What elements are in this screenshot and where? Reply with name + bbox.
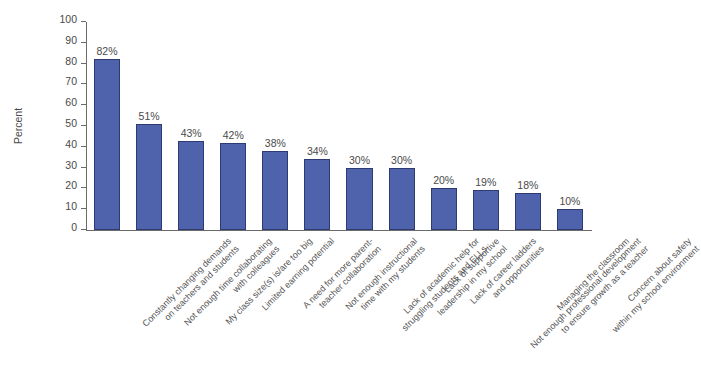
y-tick-label: 60: [65, 97, 77, 108]
bar-value-label: 20%: [433, 174, 454, 186]
bar-group[interactable]: 43%: [178, 22, 204, 230]
bar-group[interactable]: 42%: [220, 22, 246, 230]
plot-area: 1009080706050403020100 82%51%43%42%38%34…: [86, 22, 591, 230]
y-axis-title: Percent: [12, 108, 24, 144]
bar-value-label: 38%: [265, 137, 286, 149]
x-axis-label-line: Not enough professional development: [528, 236, 643, 351]
bar-value-label: 19%: [475, 176, 496, 188]
bar[interactable]: [473, 190, 499, 230]
bar[interactable]: [178, 141, 204, 230]
bar-group[interactable]: 19%: [473, 22, 499, 230]
bar-value-label: 34%: [307, 145, 328, 157]
bar-value-label: 42%: [223, 129, 244, 141]
bar-group[interactable]: 82%: [94, 22, 120, 230]
bar-group[interactable]: 38%: [262, 22, 288, 230]
y-tick-label: 90: [65, 35, 77, 46]
bar[interactable]: [304, 159, 330, 230]
bar[interactable]: [431, 188, 457, 230]
bar-group[interactable]: 34%: [304, 22, 330, 230]
bar-group[interactable]: 30%: [346, 22, 372, 230]
bar-value-label: 51%: [139, 110, 160, 122]
y-tick-label: 40: [65, 139, 77, 150]
y-tick-label: 50: [65, 118, 77, 129]
y-axis-title-container: Percent: [28, 22, 42, 230]
x-axis-category-labels: Constantly changing demandson teachers a…: [0, 232, 614, 372]
bar-group[interactable]: 30%: [389, 22, 415, 230]
bar[interactable]: [94, 59, 120, 230]
bar[interactable]: [515, 193, 541, 230]
bar-value-label: 10%: [559, 195, 580, 207]
bar[interactable]: [262, 151, 288, 230]
y-tick-label: 70: [65, 76, 77, 87]
bar[interactable]: [346, 168, 372, 230]
bar-value-label: 30%: [391, 154, 412, 166]
x-axis-line: [86, 230, 592, 231]
bar-group[interactable]: 51%: [136, 22, 162, 230]
y-tick-label: 20: [65, 180, 77, 191]
bar[interactable]: [136, 124, 162, 230]
bar-group[interactable]: 18%: [515, 22, 541, 230]
bar-value-label: 82%: [97, 45, 118, 57]
bar-value-label: 18%: [517, 179, 538, 191]
bar-group[interactable]: 20%: [431, 22, 457, 230]
bar-value-label: 43%: [181, 127, 202, 139]
bar[interactable]: [220, 143, 246, 230]
y-tick-label: 100: [59, 14, 77, 25]
bar[interactable]: [557, 209, 583, 230]
y-tick-label: 30: [65, 160, 77, 171]
y-tick-label: 80: [65, 56, 77, 67]
bar[interactable]: [389, 168, 415, 230]
bar-value-label: 30%: [349, 154, 370, 166]
bars-container: 82%51%43%42%38%34%30%30%20%19%18%10%: [86, 22, 591, 230]
y-tick-label: 10: [65, 201, 77, 212]
bar-group[interactable]: 10%: [557, 22, 583, 230]
